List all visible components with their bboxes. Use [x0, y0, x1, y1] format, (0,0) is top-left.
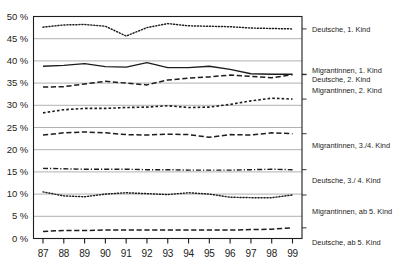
y-tick-label: 30 %	[0, 99, 28, 110]
gridlines	[34, 39, 303, 217]
y-tick-label: 45 %	[0, 33, 28, 44]
legend-item-label: Migrantinnen, 3./4. Kind	[312, 141, 390, 150]
line-chart: 50 %45 %40 %35 %30 %25 %20 %15 %10 %5 %0…	[0, 0, 409, 270]
x-tick-label: 99	[282, 248, 304, 259]
legend-item-label: Deutsche, 2. Kind	[312, 75, 370, 84]
x-tick-label: 88	[53, 248, 75, 259]
legend-item-label: Migrantinnen, ab 5. Kind	[312, 207, 392, 216]
legend-item-label: Deutsche, 3./ 4. Kind	[312, 176, 381, 185]
legend-line-samples	[302, 29, 307, 228]
x-tick-label: 91	[115, 248, 137, 259]
series-line-5	[43, 168, 293, 170]
legend-item-label: Migrantinnen, 1. Kind	[312, 66, 382, 75]
x-tick-label: 93	[157, 248, 179, 259]
series-line-0	[43, 24, 293, 36]
x-tick-label: 97	[240, 248, 262, 259]
x-tick-label: 98	[261, 248, 283, 259]
x-tick-label: 96	[219, 248, 241, 259]
chart-plot-area	[0, 0, 409, 270]
series-line-6	[43, 192, 293, 198]
legend-item-label: Migrantinnen, 2. Kind	[312, 86, 382, 95]
y-tick-label: 50 %	[0, 11, 28, 22]
x-tick-label: 89	[74, 248, 96, 259]
legend-item-label: Deutsche, 1. Kind	[312, 25, 370, 34]
y-tick-label: 25 %	[0, 122, 28, 133]
legend-item-label: Deutsche, ab 5. Kind	[312, 238, 381, 247]
x-axis-ticks	[43, 239, 293, 244]
y-tick-label: 40 %	[0, 55, 28, 66]
x-tick-label: 94	[178, 248, 200, 259]
x-tick-label: 95	[198, 248, 220, 259]
x-tick-label: 90	[94, 248, 116, 259]
series-line-2	[43, 75, 293, 87]
y-tick-label: 35 %	[0, 77, 28, 88]
y-tick-label: 20 %	[0, 144, 28, 155]
series-line-1	[43, 63, 293, 75]
y-tick-label: 5 %	[0, 210, 28, 221]
x-tick-label: 87	[32, 248, 54, 259]
y-tick-label: 15 %	[0, 166, 28, 177]
y-tick-label: 10 %	[0, 188, 28, 199]
series-line-7	[43, 228, 293, 232]
y-tick-label: 0 %	[0, 233, 28, 244]
series-line-4	[43, 132, 293, 137]
x-tick-label: 92	[136, 248, 158, 259]
